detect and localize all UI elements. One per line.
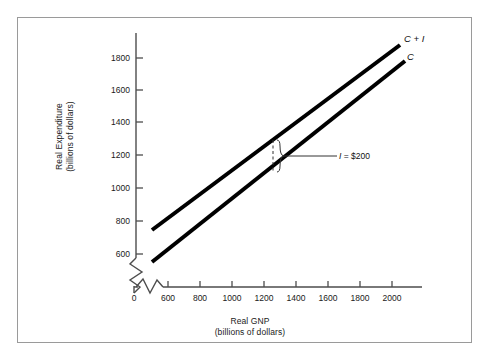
x-tick-label-1000: 1000 bbox=[218, 293, 246, 303]
x-tick-label-2000: 2000 bbox=[378, 293, 406, 303]
investment-annotation-label: I = $200 bbox=[339, 151, 370, 161]
series-label-c-plus-i: C + I bbox=[404, 33, 424, 44]
series-line-c bbox=[152, 61, 405, 262]
annotation-value: $200 bbox=[351, 151, 370, 161]
x-tick-label-0: 0 bbox=[122, 293, 146, 303]
series-line-c-plus-i bbox=[152, 45, 400, 230]
y-axis-title: Real Expenditure(billions of dollars) bbox=[54, 67, 75, 207]
y-tick-label-600: 600 bbox=[96, 249, 130, 259]
x-tick-label-800: 800 bbox=[188, 293, 212, 303]
x-tick-label-1200: 1200 bbox=[250, 293, 278, 303]
x-axis-title: Real GNP(billions of dollars) bbox=[160, 316, 340, 337]
y-tick-label-1000: 1000 bbox=[96, 183, 130, 193]
x-tick-label-600: 600 bbox=[156, 293, 180, 303]
y-tick-label-1800: 1800 bbox=[96, 53, 130, 63]
annotation-equals: = bbox=[341, 151, 351, 161]
y-axis-break-zigzag bbox=[130, 258, 142, 293]
y-tick-label-800: 800 bbox=[96, 216, 130, 226]
x-axis-ticks bbox=[168, 281, 392, 287]
x-tick-label-1400: 1400 bbox=[282, 293, 310, 303]
x-axis-title-line2: (billions of dollars) bbox=[215, 327, 286, 337]
chart-figure: 1800 1600 1400 1200 1000 800 600 0 600 8… bbox=[0, 0, 490, 360]
x-axis-title-line1: Real GNP bbox=[230, 316, 269, 326]
y-axis-title-line1: Real Expenditure bbox=[54, 103, 64, 170]
investment-gap-brace bbox=[277, 140, 284, 172]
x-tick-label-1600: 1600 bbox=[314, 293, 342, 303]
y-axis-title-line2: (billions of dollars) bbox=[64, 101, 74, 172]
y-tick-label-1400: 1400 bbox=[96, 117, 130, 127]
y-axis-ticks bbox=[136, 58, 143, 254]
y-tick-label-1200: 1200 bbox=[96, 150, 130, 160]
x-axis-break-zigzag bbox=[136, 279, 163, 293]
x-tick-label-1800: 1800 bbox=[346, 293, 374, 303]
series-label-c: C bbox=[407, 51, 414, 62]
y-tick-label-1600: 1600 bbox=[96, 85, 130, 95]
